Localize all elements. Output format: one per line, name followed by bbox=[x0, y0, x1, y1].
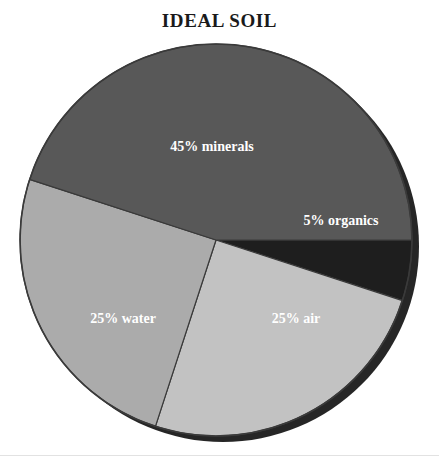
pie-chart: 5% organics25% air25% water45% minerals bbox=[0, 0, 439, 465]
slice-label-water: 25% water bbox=[90, 311, 156, 326]
footer-divider bbox=[0, 455, 439, 456]
chart-figure: IDEAL SOIL 5% organics25% air25% water45… bbox=[0, 0, 439, 465]
pie-chart-svg: 5% organics25% air25% water45% minerals bbox=[0, 0, 439, 465]
slice-label-organics: 5% organics bbox=[303, 213, 379, 228]
pie-slices bbox=[20, 44, 412, 436]
slice-label-air: 25% air bbox=[272, 311, 321, 326]
slice-label-minerals: 45% minerals bbox=[170, 139, 254, 154]
